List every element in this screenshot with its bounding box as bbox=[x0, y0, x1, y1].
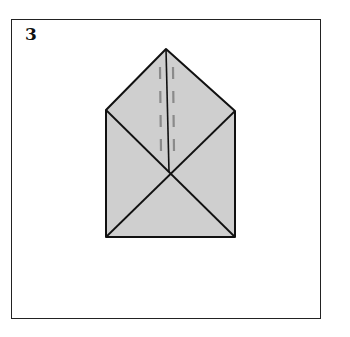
paper-shape bbox=[106, 49, 235, 237]
origami-diagram bbox=[0, 0, 350, 337]
